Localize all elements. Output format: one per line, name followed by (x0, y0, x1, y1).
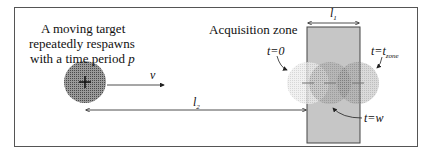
zone-width-sub: 1 (333, 14, 337, 22)
distance-label: l2 (193, 95, 200, 115)
velocity-label: v (150, 68, 155, 83)
time-start-label: t=0 (267, 44, 284, 59)
time-zone-prefix: t=t (371, 44, 386, 58)
period-symbol: p (128, 51, 135, 66)
time-w-label: t=w (364, 111, 383, 126)
caption-line-3: with a time period p (30, 51, 135, 66)
caption-line-2: repeatedly respawns (29, 36, 135, 51)
zone-label: Acquisition zone (209, 22, 297, 37)
caption-line-1: A moving target (41, 21, 125, 36)
zone-width-label: l1 (330, 6, 337, 26)
distance-sub: 2 (196, 103, 200, 111)
time-zone-sub: zone (386, 52, 399, 60)
time-zone-label: t=tzone (371, 44, 399, 64)
caption-line-3-text: with a time period (30, 51, 128, 66)
